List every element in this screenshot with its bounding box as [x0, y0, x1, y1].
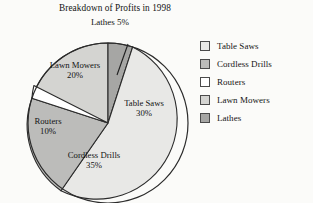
legend-label-routers: Routers [217, 77, 245, 87]
legend-swatch-lawn-mowers [200, 95, 210, 105]
legend-label-cordless-drills: Cordless Drills [217, 59, 272, 69]
pie-chart-figure: Breakdown of Profits in 1998 Lathes 5% T… [0, 0, 313, 203]
pie-svg [0, 0, 200, 203]
legend-swatch-lathes [200, 113, 210, 123]
legend-swatch-cordless-drills [200, 59, 210, 69]
legend-label-table-saws: Table Saws [217, 41, 259, 51]
legend-item-lathes[interactable]: Lathes [200, 109, 313, 127]
legend-item-cordless-drills[interactable]: Cordless Drills [200, 55, 313, 73]
chart-legend: Table Saws Cordless Drills Routers Lawn … [200, 37, 313, 127]
pie-plot-area: Table Saws 30% Cordless Drills 35% Route… [0, 0, 200, 203]
legend-item-routers[interactable]: Routers [200, 73, 313, 91]
legend-label-lawn-mowers: Lawn Mowers [217, 95, 270, 105]
legend-item-table-saws[interactable]: Table Saws [200, 37, 313, 55]
legend-swatch-routers [200, 77, 210, 87]
legend-swatch-table-saws [200, 41, 210, 51]
legend-label-lathes: Lathes [217, 113, 241, 123]
legend-item-lawn-mowers[interactable]: Lawn Mowers [200, 91, 313, 109]
